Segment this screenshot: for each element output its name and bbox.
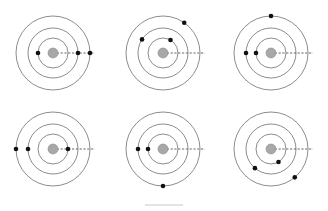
particle-dot: [76, 51, 81, 56]
particle-dot: [244, 51, 249, 56]
orbit-diagram-5: [126, 112, 205, 188]
orbit-diagram-1: [16, 16, 95, 90]
particle-dot: [276, 160, 281, 165]
particle-dot: [66, 147, 71, 152]
orbit-diagram-4: [14, 112, 95, 186]
particle-dot: [292, 175, 297, 180]
particle-dot: [36, 51, 41, 56]
particle-dot: [26, 147, 31, 152]
particle-dot: [253, 166, 258, 171]
orbit-diagram-6: [234, 112, 313, 186]
nucleus-icon: [48, 144, 58, 154]
particle-dot: [161, 184, 166, 189]
nucleus-icon: [266, 48, 276, 58]
particle-dot: [168, 38, 173, 43]
particle-dot: [88, 51, 93, 56]
nucleus-icon: [158, 144, 168, 154]
diagram-panels: [14, 14, 313, 189]
particle-dot: [14, 147, 19, 152]
particle-dot: [182, 20, 187, 25]
nucleus-icon: [158, 48, 168, 58]
particle-dot: [269, 14, 274, 19]
particle-dot: [254, 51, 259, 56]
orbit-diagram-2: [126, 16, 205, 90]
orbit-diagram-3: [234, 14, 313, 90]
particle-dot: [136, 147, 141, 152]
particle-dot: [140, 37, 145, 42]
nucleus-icon: [266, 144, 276, 154]
orbit-diagram-grid: [0, 0, 328, 211]
nucleus-icon: [48, 48, 58, 58]
particle-dot: [146, 147, 151, 152]
